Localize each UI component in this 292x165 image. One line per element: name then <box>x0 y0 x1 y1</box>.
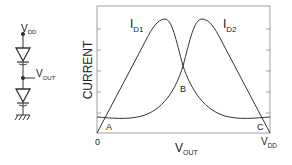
curve-id2 <box>97 19 270 133</box>
device-2-triangle-icon <box>16 89 30 102</box>
point-c-label: C <box>257 122 264 132</box>
curve-id2-label: ID2 <box>223 17 237 34</box>
x-tick-vdd: VDD <box>261 136 277 149</box>
plot-frame <box>97 6 270 133</box>
ground-icon <box>15 115 30 120</box>
vout-label: VOUT <box>36 68 56 81</box>
curve-id1-label: ID1 <box>130 17 144 34</box>
point-a-label: A <box>106 122 112 132</box>
circuit-schematic <box>15 32 35 120</box>
x-tick-zero: 0 <box>95 137 100 147</box>
curve-id1 <box>97 19 270 133</box>
diagram-canvas: VDD VOUT CURRENT VOUT 0 VDD ID1 ID2 A B … <box>0 0 292 165</box>
point-b-label: B <box>180 84 186 94</box>
x-axis-label: VOUT <box>175 141 199 156</box>
device-1-triangle-icon <box>16 48 30 61</box>
vdd-label: VDD <box>21 23 37 35</box>
y-axis-label: CURRENT <box>81 40 95 99</box>
